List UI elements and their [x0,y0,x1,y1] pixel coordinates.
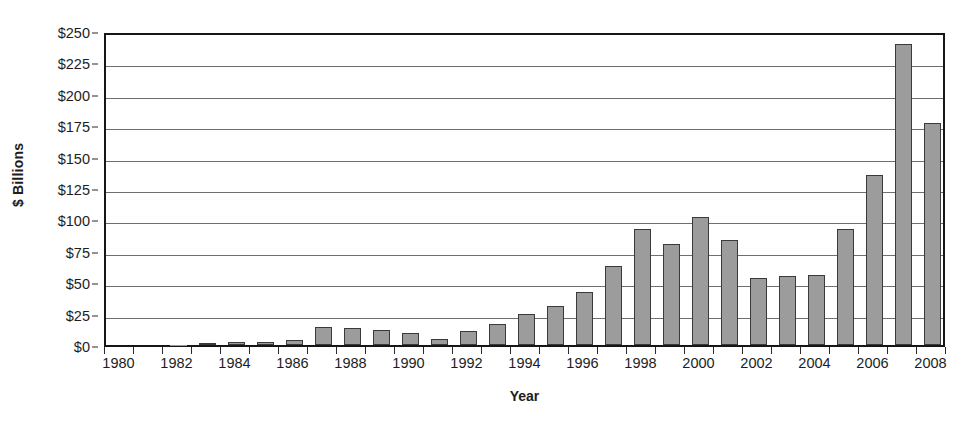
x-tick-mark [452,347,453,354]
x-tick-mark [394,347,395,354]
x-tick-mark [597,347,598,354]
bar [576,292,593,345]
x-tick-mark [829,347,830,354]
bar [373,330,390,345]
x-tick-mark [887,347,888,354]
x-tick-label: 2002 [740,355,772,371]
bar [228,342,245,345]
y-tick-label: $75 [66,245,90,261]
x-tick-mark [307,347,308,354]
x-tick-mark [713,347,714,354]
x-tick-label: 2006 [856,355,888,371]
x-tick-mark [104,347,105,354]
bar [866,175,883,345]
x-tick-mark [568,347,569,354]
bar [808,275,825,345]
x-tick-mark [249,347,250,354]
y-tick-label: $250 [58,25,90,41]
x-tick-mark [858,347,859,354]
y-tick-mark [92,315,98,316]
plot-area [104,33,945,347]
bar [460,331,477,345]
x-axis-tickmarks [104,347,945,354]
x-tick-label: 1996 [566,355,598,371]
x-tick-mark [481,347,482,354]
bar [518,314,535,345]
y-tick-label: $125 [58,182,90,198]
y-tick-mark [92,127,98,128]
bar [257,342,274,345]
x-tick-label: 1982 [160,355,192,371]
y-axis-title: $ Billions [0,0,36,350]
y-axis-tick-labels: $0$25$50$75$100$125$150$175$200$225$250 [36,33,98,347]
x-tick-label: 1986 [276,355,308,371]
x-tick-mark [220,347,221,354]
x-tick-mark [336,347,337,354]
x-tick-mark [916,347,917,354]
x-tick-label: 1988 [334,355,366,371]
y-tick-mark [92,158,98,159]
y-tick-mark [92,95,98,96]
x-tick-mark [191,347,192,354]
x-axis-tick-labels: 1980198219841986198819901992199419961998… [104,355,945,377]
bar [721,240,738,346]
bars-layer [106,35,943,345]
y-tick-label: $225 [58,56,90,72]
bar [692,217,709,345]
y-axis-title-label: $ Billions [10,143,26,207]
y-tick-label: $50 [66,276,90,292]
y-tick-mark [92,64,98,65]
x-tick-mark [800,347,801,354]
bar [605,266,622,345]
bar [547,306,564,345]
x-tick-label: 2004 [798,355,830,371]
bar [315,327,332,345]
x-tick-mark [365,347,366,354]
bar-chart-figure: $ Billions $0$25$50$75$100$125$150$175$2… [0,0,974,425]
y-tick-label: $200 [58,88,90,104]
x-tick-mark [133,347,134,354]
y-tick-label: $0 [74,339,90,355]
bar [431,339,448,345]
bar [199,343,216,345]
y-tick-label: $175 [58,119,90,135]
y-tick-label: $25 [66,308,90,324]
x-tick-label: 1990 [392,355,424,371]
x-tick-label: 1994 [508,355,540,371]
x-tick-mark [423,347,424,354]
x-tick-mark [278,347,279,354]
bar [779,276,796,345]
y-tick-mark [92,33,98,34]
x-tick-mark [684,347,685,354]
y-tick-mark [92,252,98,253]
bar [837,229,854,345]
x-tick-label: 1980 [102,355,134,371]
y-tick-label: $150 [58,151,90,167]
x-tick-mark [742,347,743,354]
x-tick-mark [945,347,946,354]
x-tick-label: 2000 [682,355,714,371]
x-tick-mark [626,347,627,354]
x-tick-label: 1984 [218,355,250,371]
bar [286,340,303,345]
x-tick-label: 1998 [624,355,656,371]
bar [663,244,680,345]
y-tick-mark [92,190,98,191]
bar [344,328,361,345]
y-tick-mark [92,221,98,222]
x-tick-label: 2008 [914,355,946,371]
y-tick-mark [92,347,98,348]
bar [634,229,651,345]
x-tick-mark [539,347,540,354]
bar [402,333,419,345]
bar [489,324,506,345]
bar [750,278,767,345]
x-axis-title: Year [104,388,945,404]
y-tick-mark [92,284,98,285]
bar [895,44,912,345]
y-tick-label: $100 [58,213,90,229]
x-tick-mark [510,347,511,354]
x-tick-mark [655,347,656,354]
x-tick-mark [162,347,163,354]
bar [924,123,941,345]
